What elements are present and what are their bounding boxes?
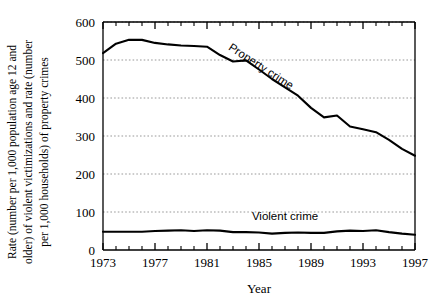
y-axis-title-line-2: older) of violent victimizations and rat… <box>22 40 35 264</box>
y-tick-label-400: 400 <box>76 91 96 106</box>
y-axis-title-line-1: Rate (number per 1,000 population age 12… <box>6 45 19 259</box>
gridlines <box>103 22 415 212</box>
y-tick-label-300: 300 <box>76 129 96 144</box>
y-axis-title-line-3: per 1,000 households) of property crimes <box>38 57 51 247</box>
y-tick-label-600: 600 <box>76 15 96 30</box>
series-label-property-crime: Property crime <box>227 41 296 92</box>
y-axis-title: Rate (number per 1,000 population age 12… <box>6 40 51 264</box>
x-tick-label-1981: 1981 <box>194 255 220 270</box>
line-chart: 1973197719811985198919931997 01002003004… <box>0 0 438 305</box>
x-tick-label-1993: 1993 <box>350 255 376 270</box>
y-tick-labels: 0100200300400500600 <box>76 15 96 258</box>
y-tick-label-500: 500 <box>76 53 96 68</box>
x-tick-labels: 1973197719811985198919931997 <box>90 255 429 270</box>
y-tick-label-200: 200 <box>76 167 96 182</box>
series-label-violent-crime: Violent crime <box>252 210 318 222</box>
y-tick-label-100: 100 <box>76 205 96 220</box>
x-tick-marks-top <box>103 22 415 29</box>
series-line-violent-crime <box>103 230 415 235</box>
x-tick-marks <box>103 243 415 250</box>
x-tick-label-1985: 1985 <box>246 255 272 270</box>
x-tick-label-1977: 1977 <box>142 255 169 270</box>
series-annotations: Property crimeViolent crime <box>227 41 319 223</box>
y-tick-label-0: 0 <box>89 243 96 258</box>
x-axis-title: Year <box>247 281 272 296</box>
chart-figure: 1973197719811985198919931997 01002003004… <box>0 0 438 305</box>
x-tick-label-1989: 1989 <box>298 255 324 270</box>
x-tick-label-1997: 1997 <box>402 255 429 270</box>
